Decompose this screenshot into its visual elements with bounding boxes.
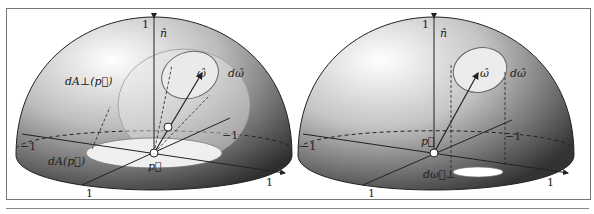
right-y-neg-tick: −1 — [505, 130, 521, 143]
left-point-label: p⃗ — [148, 160, 162, 173]
left-dA-perp-label: dA⊥(p⃗) — [65, 75, 113, 88]
right-y-pos-tick: 1 — [368, 187, 375, 200]
left-omega-label: ω̂ — [197, 67, 206, 80]
left-d-omega-label: dω̂ — [228, 67, 244, 80]
left-dA-label: dA(p⃗) — [48, 155, 85, 168]
left-normal-label: n̂ — [160, 27, 167, 40]
right-x-neg-tick: −1 — [300, 140, 316, 153]
right-top-tick-label: 1 — [422, 18, 429, 31]
left-x-pos-tick: 1 — [266, 176, 273, 189]
right-hemisphere — [298, 17, 574, 190]
right-d-omega-perp-label: dω⃗⊥ — [423, 168, 456, 181]
left-y-neg-tick: −1 — [222, 129, 238, 142]
right-omega-label: ω̂ — [480, 67, 489, 80]
right-x-pos-tick: 1 — [547, 176, 554, 189]
right-point-label: p⃗ — [421, 135, 435, 148]
left-x-neg-tick: −1 — [20, 140, 36, 153]
right-normal-label: n̂ — [440, 27, 447, 40]
left-top-tick-label: 1 — [142, 18, 149, 31]
hemisphere-figure: 1 n̂ ω̂ dω̂ dA⊥(p⃗) dA(p⃗) p⃗ −1 −1 1 1 … — [0, 0, 594, 214]
left-y-pos-tick: 1 — [86, 187, 93, 200]
right-d-omega-label: dω̂ — [510, 67, 526, 80]
